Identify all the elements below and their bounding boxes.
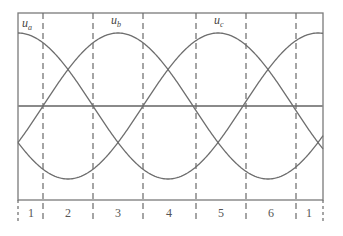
sector-label: 1 (306, 206, 312, 220)
sector-label: 2 (65, 206, 71, 220)
label-u-b: ub (111, 13, 121, 29)
three-phase-waveform-diagram: ua ub uc 1 2 3 4 5 6 1 (0, 0, 343, 236)
sector-boundary-lines (18, 13, 323, 222)
sector-label: 3 (115, 206, 121, 220)
label-u-c: uc (214, 13, 224, 29)
sector-label: 1 (28, 206, 34, 220)
label-u-a: ua (22, 16, 32, 32)
sector-label: 4 (166, 206, 172, 220)
sector-labels: 1 2 3 4 5 6 1 (28, 206, 312, 220)
sector-label: 6 (268, 206, 274, 220)
sector-label: 5 (218, 206, 224, 220)
